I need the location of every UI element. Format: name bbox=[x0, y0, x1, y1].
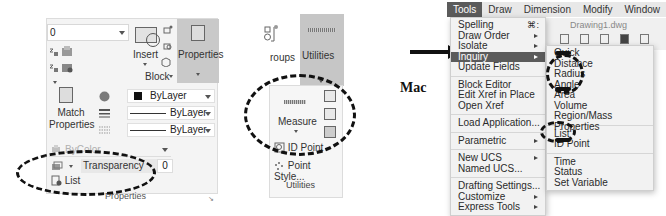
menu-tools[interactable]: Tools bbox=[447, 2, 482, 17]
menu-modify[interactable]: Modify bbox=[577, 2, 618, 17]
menu-item-named-ucs[interactable]: Named UCS... bbox=[451, 164, 545, 175]
properties-dropdown-icon[interactable] bbox=[196, 73, 200, 76]
groups-button[interactable]: roups bbox=[270, 52, 295, 63]
panel-launcher-icon[interactable]: ↘ bbox=[208, 195, 214, 203]
menu-separator bbox=[451, 114, 545, 115]
linetype-dropdown[interactable]: ByLayer bbox=[127, 123, 215, 137]
annotation-ellipse bbox=[16, 150, 156, 196]
layer-dropdown[interactable]: 0 bbox=[47, 24, 129, 41]
color-wheel-icon bbox=[99, 91, 110, 102]
pointer-arrow bbox=[410, 50, 450, 54]
submenu-arrow-icon bbox=[534, 205, 538, 209]
document-title: Drawing1.dwg bbox=[570, 20, 627, 30]
submenu-arrow-icon bbox=[534, 195, 538, 199]
mac-menubar: ToolsDrawDimensionModifyWindowHelp bbox=[447, 2, 666, 17]
save-as-icon[interactable] bbox=[640, 34, 649, 44]
block-attributes-icon[interactable] bbox=[161, 57, 171, 67]
groups-icon[interactable] bbox=[264, 24, 278, 44]
utilities-panel-label: Utilities bbox=[286, 180, 315, 190]
point-style-button[interactable]: Point Style... bbox=[274, 160, 342, 182]
tools-menu: Spelling⌘: Draw Order Isolate Inquiry Up… bbox=[450, 17, 546, 216]
menu-separator bbox=[451, 177, 545, 178]
transparency-value-input[interactable]: 0 bbox=[157, 159, 173, 173]
save-icon[interactable] bbox=[620, 34, 629, 44]
edit-block-icon[interactable] bbox=[163, 41, 173, 51]
insert-button[interactable]: Insert bbox=[133, 49, 158, 60]
point-style-icon bbox=[274, 160, 285, 171]
annotation-scribble bbox=[555, 138, 571, 142]
menu-item-express-tools[interactable]: Express Tools bbox=[451, 202, 545, 213]
menu-item-region-mass-properties[interactable]: Region/Mass Properties bbox=[547, 111, 653, 122]
submenu-arrow-icon bbox=[534, 44, 538, 48]
chevron-down-icon bbox=[162, 148, 168, 152]
block-panel-expand-icon[interactable] bbox=[169, 75, 173, 78]
layers-expand-arrow-icon[interactable] bbox=[53, 81, 57, 84]
block-group: Insert Block bbox=[131, 19, 177, 79]
mac-label: Mac bbox=[400, 80, 426, 96]
layer-lock-icon[interactable] bbox=[49, 47, 59, 57]
match-properties-icon[interactable] bbox=[59, 87, 73, 103]
layer-unlock-icon[interactable] bbox=[49, 63, 59, 73]
open-folder-icon[interactable] bbox=[600, 34, 609, 44]
linetype-icon bbox=[99, 125, 110, 136]
chevron-down-icon bbox=[119, 31, 125, 35]
chevron-down-icon bbox=[205, 129, 211, 133]
properties-tab-active[interactable]: Properties bbox=[177, 19, 219, 83]
properties-icon bbox=[191, 25, 205, 41]
menu-draw[interactable]: Draw bbox=[482, 2, 517, 17]
menu-separator bbox=[451, 132, 545, 133]
menu-item-open-xref[interactable]: Open Xref bbox=[451, 101, 545, 112]
menu-separator bbox=[451, 76, 545, 77]
annotation-scribble bbox=[555, 51, 571, 55]
layer-folder-icon[interactable] bbox=[61, 45, 73, 57]
new-sheet-icon[interactable] bbox=[580, 34, 589, 44]
submenu-arrow-icon bbox=[534, 55, 538, 59]
annotation-scribble bbox=[555, 87, 571, 91]
submenu-arrow-icon bbox=[534, 156, 538, 160]
menu-item-update-fields[interactable]: Update Fields bbox=[451, 62, 545, 73]
chevron-down-icon bbox=[205, 95, 211, 99]
menu-separator bbox=[547, 153, 653, 154]
submenu-arrow-icon bbox=[534, 139, 538, 143]
insert-dropdown-icon[interactable] bbox=[143, 63, 147, 66]
new-file-icon[interactable] bbox=[560, 34, 569, 44]
annotation-ellipse bbox=[244, 74, 356, 156]
block-panel-label[interactable]: Block bbox=[145, 71, 169, 82]
lineweight-dropdown[interactable]: ByLayer bbox=[127, 106, 215, 120]
menu-separator bbox=[451, 149, 545, 150]
insert-block-icon[interactable] bbox=[135, 27, 157, 43]
menu-dimension[interactable]: Dimension bbox=[518, 2, 577, 17]
chevron-down-icon bbox=[205, 112, 211, 116]
submenu-arrow-icon bbox=[534, 34, 538, 38]
lineweight-icon bbox=[99, 108, 110, 119]
ruler-icon bbox=[308, 28, 336, 32]
layer-state-icon[interactable] bbox=[61, 61, 73, 73]
menu-item-set-variable[interactable]: Set Variable bbox=[547, 178, 653, 189]
menu-window[interactable]: Window bbox=[618, 2, 666, 17]
color-swatch bbox=[134, 92, 142, 100]
create-block-icon[interactable] bbox=[163, 25, 173, 35]
match-properties-button[interactable]: Match Properties bbox=[49, 107, 93, 131]
menu-item-load-application[interactable]: Load Application... bbox=[451, 118, 545, 129]
color-dropdown[interactable]: ByLayer bbox=[127, 89, 215, 103]
menu-item-parametric[interactable]: Parametric bbox=[451, 136, 545, 147]
